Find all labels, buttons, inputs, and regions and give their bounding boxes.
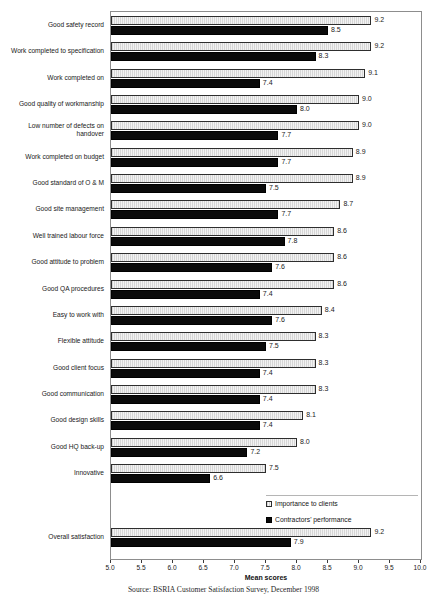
chart-legend: Importance to clients Contractors' perfo… [266, 500, 416, 532]
x-axis-tick-label: 8.0 [291, 564, 300, 571]
bar-importance [111, 332, 316, 341]
legend-item-performance: Contractors' performance [266, 516, 416, 523]
legend-label-performance: Contractors' performance [275, 516, 351, 523]
category-label: Good site management [0, 205, 104, 213]
plot-area: 9.28.59.28.39.17.49.08.09.07.78.97.78.97… [110, 11, 422, 560]
legend-item-importance: Importance to clients [266, 500, 416, 507]
x-axis-tick [389, 560, 390, 563]
bar-group: 8.77.7 [111, 200, 421, 220]
x-axis-tick-label: 7.0 [229, 564, 238, 571]
legend-swatch-importance-icon [266, 501, 272, 507]
x-axis-tick-label: 9.5 [384, 564, 393, 571]
value-label-performance: 7.6 [275, 315, 285, 324]
value-label-importance: 8.3 [319, 384, 329, 393]
bar-group: 8.37.5 [111, 332, 421, 352]
x-axis-tick [265, 560, 266, 563]
value-label-importance: 8.6 [337, 279, 347, 288]
category-label: Overall satisfaction [0, 533, 104, 541]
value-label-performance: 7.9 [294, 537, 304, 546]
value-label-importance: 9.0 [362, 120, 372, 129]
category-label: Good QA procedures [0, 285, 104, 293]
category-label: Work completed on budget [0, 153, 104, 161]
x-axis-tick [420, 560, 421, 563]
x-axis-tick-label: 10.0 [414, 564, 427, 571]
x-axis-tick-label: 5.0 [105, 564, 114, 571]
category-label: Work completed on [0, 74, 104, 82]
clipped-header-text [18, 0, 428, 4]
bar-group: 9.17.4 [111, 69, 421, 89]
value-label-importance: 9.1 [368, 68, 378, 77]
value-label-importance: 8.9 [356, 173, 366, 182]
bar-performance [111, 105, 297, 114]
value-label-importance: 9.2 [374, 41, 384, 50]
x-axis-tick [296, 560, 297, 563]
bar-performance [111, 79, 260, 88]
bar-performance [111, 395, 260, 404]
bar-performance [111, 131, 278, 140]
bar-group: 8.07.2 [111, 438, 421, 458]
legend-label-importance: Importance to clients [275, 500, 338, 507]
bar-performance [111, 290, 260, 299]
bar-group: 7.56.6 [111, 464, 421, 484]
bar-group: 9.28.3 [111, 42, 421, 62]
category-axis-labels: Good safety recordWork completed to spec… [0, 11, 107, 560]
bar-group: 9.28.5 [111, 16, 421, 36]
bar-importance [111, 438, 297, 447]
bar-group: 8.97.5 [111, 174, 421, 194]
category-label: Good standard of O & M [0, 179, 104, 187]
category-label: Low number of defects on handover [0, 122, 104, 138]
value-label-performance: 8.0 [300, 104, 310, 113]
x-axis: 5.05.56.06.57.07.58.08.59.09.510.0 [110, 560, 422, 561]
value-label-performance: 6.6 [213, 473, 223, 482]
category-label: Good design skills [0, 416, 104, 424]
category-label: Good client focus [0, 364, 104, 372]
category-label: Good quality of workmanship [0, 100, 104, 108]
bar-group: 8.67.4 [111, 280, 421, 300]
bar-group: 8.47.6 [111, 306, 421, 326]
value-label-performance: 7.5 [269, 183, 279, 192]
category-label: Innovative [0, 469, 104, 477]
bar-group: 8.67.6 [111, 253, 421, 273]
x-axis-tick [234, 560, 235, 563]
bar-performance [111, 342, 266, 351]
value-label-importance: 8.1 [306, 410, 316, 419]
bar-performance [111, 52, 316, 61]
x-axis-tick-label: 5.5 [136, 564, 145, 571]
value-label-performance: 7.4 [263, 394, 273, 403]
category-label: Good safety record [0, 21, 104, 29]
bar-performance [111, 263, 272, 272]
value-label-performance: 7.4 [263, 368, 273, 377]
x-axis-tick [203, 560, 204, 563]
bar-performance [111, 421, 260, 430]
bar-importance [111, 200, 340, 209]
bar-importance [111, 121, 359, 130]
value-label-importance: 8.3 [319, 331, 329, 340]
bar-performance [111, 184, 266, 193]
x-axis-tick-label: 6.0 [167, 564, 176, 571]
bar-group: 9.07.7 [111, 121, 421, 141]
bar-importance [111, 253, 334, 262]
value-label-importance: 8.7 [343, 199, 353, 208]
bar-importance [111, 280, 334, 289]
bar-performance [111, 237, 285, 246]
bar-group: 8.37.4 [111, 359, 421, 379]
x-axis-title: Mean scores [110, 574, 422, 581]
bar-group: 8.37.4 [111, 385, 421, 405]
bar-group: 8.67.8 [111, 227, 421, 247]
x-axis-tick [172, 560, 173, 563]
bar-importance [111, 227, 334, 236]
value-label-performance: 7.4 [263, 420, 273, 429]
legend-swatch-performance-icon [266, 517, 272, 523]
value-label-importance: 8.4 [325, 305, 335, 314]
value-label-importance: 8.6 [337, 252, 347, 261]
x-axis-tick-label: 7.5 [260, 564, 269, 571]
bar-importance [111, 411, 303, 420]
bar-group: 8.97.7 [111, 148, 421, 168]
x-axis-tick [141, 560, 142, 563]
value-label-performance: 7.7 [281, 130, 291, 139]
x-axis-tick-label: 9.0 [353, 564, 362, 571]
bar-importance [111, 385, 316, 394]
value-label-performance: 7.8 [288, 236, 298, 245]
value-label-importance: 9.0 [362, 94, 372, 103]
bar-importance [111, 174, 353, 183]
